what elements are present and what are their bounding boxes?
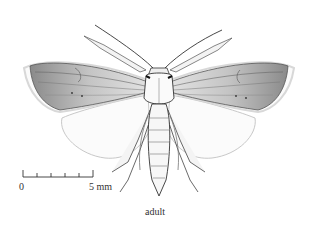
moth-illustration-figure: 0 5 mm adult (0, 0, 310, 231)
figure-caption: adult (0, 206, 310, 217)
antennae (95, 25, 222, 68)
scale-end-label: 5 mm (89, 182, 112, 192)
scale-bar (23, 170, 93, 177)
thorax (144, 68, 174, 104)
abdomen (148, 104, 170, 196)
moth-drawing (0, 0, 310, 231)
scale-start-label: 0 (19, 182, 24, 192)
